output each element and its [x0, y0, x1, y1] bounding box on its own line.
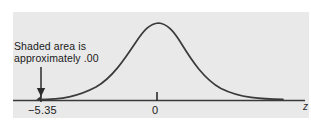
normal-curve-figure: Shaded area is approximately .00 −5.35 0… [0, 0, 311, 128]
annotation-arrow-head-icon [37, 88, 45, 97]
annotation-line-1: Shaded area is [14, 41, 122, 53]
x-tick-label-minus-5-35: −5.35 [28, 104, 57, 116]
annotation-line-2: approximately .00 [14, 53, 122, 65]
x-tick-label-zero: 0 [152, 104, 158, 116]
x-axis-name-label: z [303, 101, 308, 112]
shaded-area-annotation: Shaded area is approximately .00 [14, 41, 122, 64]
